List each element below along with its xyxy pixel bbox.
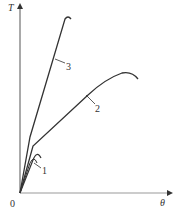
- curve-3-label: 3: [66, 61, 71, 72]
- curve-1-leader: [34, 163, 41, 168]
- curve-2: [20, 73, 138, 193]
- x-axis-label: θ: [160, 197, 165, 208]
- curve-2-label: 2: [95, 103, 100, 114]
- curve-3-leader: [55, 59, 65, 63]
- y-axis-label: T: [8, 2, 15, 13]
- origin-label: 0: [10, 198, 15, 209]
- torque-twist-diagram: T θ 0 3 2 1: [0, 0, 179, 209]
- curve-2-leader: [86, 95, 95, 104]
- curve-1-label: 1: [42, 165, 47, 176]
